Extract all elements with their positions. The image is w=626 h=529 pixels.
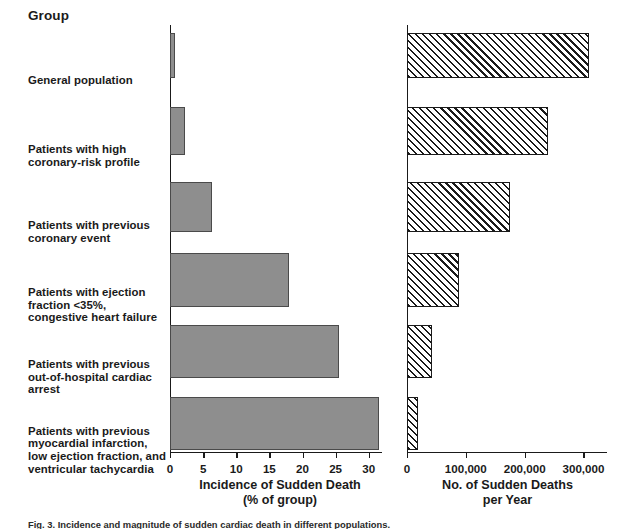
x-tick-label-deaths-per-year-2: 200,000	[504, 462, 546, 475]
category-label-line: Patients with high	[28, 143, 168, 156]
x-tick-label-incidence-0: 0	[167, 462, 173, 475]
category-label-line: Patients with previous	[28, 425, 168, 438]
x-tick-deaths-per-year-2	[525, 453, 526, 458]
x-axis-title-line: No. of Sudden Deaths	[400, 478, 615, 493]
bar-incidence-0	[170, 33, 175, 78]
x-tick-label-incidence-5: 25	[329, 462, 342, 475]
category-label-line: low ejection fraction, and	[28, 450, 168, 463]
x-axis-title-line: Incidence of Sudden Death	[150, 478, 410, 493]
bar-deaths-per-year-3	[407, 253, 459, 307]
chart-panel-incidence: 051015202530	[170, 25, 382, 453]
x-axis-title-incidence: Incidence of Sudden Death(% of group)	[150, 478, 410, 507]
category-label-line: coronary-risk profile	[28, 156, 168, 169]
category-label-5: Patients with previousmyocardial infarct…	[28, 425, 168, 475]
x-tick-label-incidence-1: 5	[200, 462, 206, 475]
category-label-line: Patients with ejection	[28, 286, 168, 299]
category-label-line: General population	[28, 74, 168, 87]
x-tick-incidence-3	[269, 453, 270, 458]
x-tick-incidence-5	[336, 453, 337, 458]
x-axis-title-line: per Year	[400, 493, 615, 508]
bar-deaths-per-year-1	[407, 107, 548, 155]
x-axis-line-left	[170, 452, 382, 453]
category-label-line: congestive heart failure	[28, 311, 168, 324]
x-axis-title-deaths: No. of Sudden Deathsper Year	[400, 478, 615, 507]
x-tick-deaths-per-year-0	[407, 453, 408, 458]
x-tick-deaths-per-year-1	[466, 453, 467, 458]
bar-deaths-per-year-2	[407, 182, 510, 232]
x-axis-title-line: (% of group)	[150, 493, 410, 508]
x-axis-line-right	[407, 452, 607, 453]
category-label-line: Patients with previous	[28, 219, 168, 232]
y-axis-line-right	[407, 25, 408, 453]
category-label-0: General population	[28, 74, 168, 87]
category-label-line: arrest	[28, 383, 168, 396]
x-tick-incidence-1	[203, 453, 204, 458]
category-label-1: Patients with highcoronary-risk profile	[28, 143, 168, 168]
bar-deaths-per-year-4	[407, 325, 432, 378]
category-label-column: General populationPatients with highcoro…	[28, 25, 160, 453]
category-label-line: out-of-hospital cardiac	[28, 371, 168, 384]
x-tick-incidence-6	[369, 453, 370, 458]
bar-incidence-4	[170, 325, 339, 378]
bar-incidence-5	[170, 397, 379, 450]
x-tick-label-deaths-per-year-3: 300,000	[563, 462, 605, 475]
x-tick-label-deaths-per-year-0: 0	[404, 462, 410, 475]
category-label-line: coronary event	[28, 232, 168, 245]
bar-incidence-2	[170, 182, 212, 232]
figure-caption: Fig. 3. Incidence and magnitude of sudde…	[28, 519, 588, 529]
category-label-3: Patients with ejectionfraction <35%,cong…	[28, 286, 168, 324]
y-axis-line-left	[170, 25, 171, 453]
category-label-line: Patients with previous	[28, 358, 168, 371]
category-label-line: myocardial infarction,	[28, 437, 168, 450]
x-tick-incidence-4	[303, 453, 304, 458]
group-column-header: Group	[28, 8, 69, 23]
x-tick-label-deaths-per-year-1: 100,000	[445, 462, 487, 475]
bar-deaths-per-year-0	[407, 33, 589, 78]
x-tick-incidence-2	[236, 453, 237, 458]
x-tick-label-incidence-4: 20	[296, 462, 309, 475]
bar-incidence-3	[170, 253, 289, 307]
bar-incidence-1	[170, 107, 185, 155]
x-tick-deaths-per-year-3	[583, 453, 584, 458]
x-tick-label-incidence-6: 30	[362, 462, 375, 475]
x-tick-incidence-0	[170, 453, 171, 458]
chart-panel-deaths: 0100,000200,000300,000	[407, 25, 607, 453]
category-label-line: ventricular tachycardia	[28, 463, 168, 476]
bar-deaths-per-year-5	[407, 397, 418, 450]
figure-sudden-death-chart: Group General populationPatients with hi…	[0, 0, 626, 529]
category-label-line: fraction <35%,	[28, 299, 168, 312]
category-label-4: Patients with previousout-of-hospital ca…	[28, 358, 168, 396]
category-label-2: Patients with previouscoronary event	[28, 219, 168, 244]
x-tick-label-incidence-2: 10	[230, 462, 243, 475]
x-tick-label-incidence-3: 15	[263, 462, 276, 475]
